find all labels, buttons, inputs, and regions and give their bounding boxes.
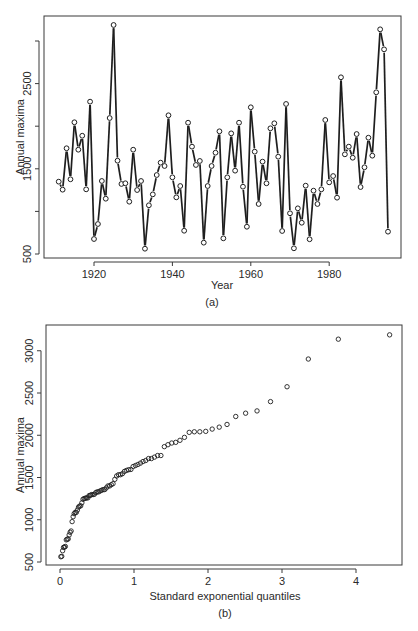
data-point — [194, 163, 199, 168]
data-point — [70, 519, 74, 523]
panel-a-x-axis-label: Year — [211, 279, 234, 291]
panel-b-x-tick-label: 4 — [353, 575, 359, 587]
data-point — [150, 192, 155, 197]
data-point — [197, 159, 202, 164]
data-point — [103, 196, 108, 201]
panel-b-y-tick-label: 2500 — [23, 381, 35, 405]
data-point — [272, 121, 277, 126]
data-point — [387, 333, 391, 337]
data-point — [370, 153, 375, 158]
data-point — [288, 211, 293, 216]
panel-a-x-axis: 1920194019601980 — [82, 262, 342, 280]
figure: 50015002500 1920194019601980 Year Annual… — [0, 0, 418, 631]
data-point — [166, 113, 171, 118]
data-point — [225, 175, 230, 180]
data-point — [268, 399, 272, 403]
data-point — [268, 126, 273, 131]
data-point — [96, 222, 101, 227]
data-point — [306, 357, 310, 361]
data-point — [92, 237, 97, 242]
data-point — [204, 429, 208, 433]
data-point — [154, 173, 159, 178]
data-point — [285, 385, 289, 389]
data-point — [115, 158, 120, 163]
panel-a-x-tick-label: 1980 — [317, 268, 341, 280]
data-point — [178, 438, 182, 442]
data-point — [386, 229, 391, 234]
panel-b-y-tick-label: 3000 — [23, 339, 35, 363]
data-point — [243, 411, 247, 415]
panel-a-y-tick-label: 500 — [21, 245, 33, 263]
data-point — [127, 199, 132, 204]
data-point — [299, 220, 304, 225]
panel-a-x-tick-label: 1940 — [160, 268, 184, 280]
panel-b-x-tick-label: 3 — [279, 575, 285, 587]
data-point — [187, 430, 191, 434]
data-point — [178, 184, 183, 189]
data-point — [323, 118, 328, 123]
data-point — [234, 414, 238, 418]
data-point — [378, 27, 383, 32]
data-point — [339, 75, 344, 80]
data-point — [374, 90, 379, 95]
data-point — [276, 154, 281, 159]
data-point — [64, 146, 69, 151]
panel-a-y-axis-label: Annual maxima — [14, 98, 26, 175]
data-point — [327, 180, 332, 185]
data-point — [342, 152, 347, 157]
data-point — [244, 224, 249, 229]
panel-b-y-tick-label: 500 — [23, 553, 35, 571]
data-point — [295, 206, 300, 211]
data-point — [346, 144, 351, 149]
data-point — [225, 422, 229, 426]
data-point — [192, 430, 196, 434]
panel-a-y-tick-label: 2500 — [21, 71, 33, 95]
data-point — [210, 427, 214, 431]
panel-b-y-axis-label: Annual maxima — [14, 416, 26, 493]
panel-b-x-axis: 01234 — [57, 569, 359, 587]
panel-b-y-tick-label: 1000 — [23, 508, 35, 532]
data-point — [260, 159, 265, 164]
data-point — [174, 195, 179, 200]
data-point — [99, 179, 104, 184]
data-point — [284, 102, 289, 107]
data-point — [135, 188, 140, 193]
data-point — [131, 147, 136, 152]
data-point — [80, 133, 85, 138]
panel-b-x-tick-label: 2 — [205, 575, 211, 587]
panel-b-series-qq-points — [59, 333, 392, 559]
data-point — [307, 237, 312, 242]
data-point — [111, 23, 116, 28]
data-point — [162, 164, 167, 169]
data-point — [84, 187, 89, 192]
data-point — [311, 188, 316, 193]
data-point — [123, 181, 128, 186]
data-point — [68, 177, 73, 182]
data-point — [170, 175, 175, 180]
data-point — [241, 184, 246, 189]
data-point — [303, 183, 308, 188]
panel-b-x-axis-label: Standard exponential quantiles — [149, 590, 301, 602]
data-point — [198, 430, 202, 434]
data-point — [190, 144, 195, 149]
data-point — [362, 165, 367, 170]
data-point — [255, 409, 259, 413]
panel-a-series-annual-maxima — [56, 23, 390, 252]
data-point — [366, 135, 371, 140]
data-point — [319, 187, 324, 192]
data-point — [143, 246, 148, 251]
data-point — [229, 131, 234, 136]
data-point — [315, 202, 320, 207]
data-point — [139, 179, 144, 184]
data-point — [335, 195, 340, 200]
data-point — [201, 240, 206, 245]
panel-a: 50015002500 1920194019601980 Year Annual… — [14, 16, 401, 308]
data-point — [382, 47, 387, 52]
data-point — [248, 105, 253, 110]
data-point — [354, 132, 359, 137]
data-point — [331, 174, 336, 179]
data-point — [217, 129, 222, 134]
data-point — [56, 179, 61, 184]
data-point — [256, 202, 261, 207]
panel-a-caption: (a) — [205, 296, 218, 308]
